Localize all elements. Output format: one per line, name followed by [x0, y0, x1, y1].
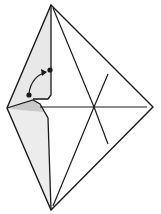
start-dot	[26, 92, 31, 97]
diagonal-crease-bottom	[53, 107, 94, 206]
origami-diagram	[0, 0, 161, 214]
crossing-crease	[94, 74, 108, 107]
crossing-crease-lower	[94, 107, 108, 144]
end-dot	[47, 67, 52, 72]
diagonal-crease-top	[53, 8, 94, 107]
